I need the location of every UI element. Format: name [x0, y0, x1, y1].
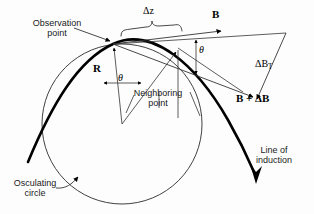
theta-center-label: θ — [118, 72, 123, 83]
observation-point-label-line2: point — [20, 28, 94, 38]
delta-z-variable: z — [149, 5, 153, 16]
delta-z-label: Δz — [143, 5, 154, 16]
radius-line-observation-point — [114, 48, 122, 124]
osculating-circle-label-line1: Osculating — [4, 178, 66, 188]
osculating-circle-label-line2: circle — [4, 188, 66, 198]
observation-point-label: Observation point — [20, 18, 94, 39]
delta-b-t-label: ΔBT — [255, 58, 273, 71]
line-of-induction-arrowhead — [250, 164, 262, 184]
line-of-induction-label-line2: induction — [246, 155, 302, 165]
observation-point-label-line1: Observation — [20, 18, 94, 28]
neighboring-point-label-line1: Neighboring — [122, 88, 194, 98]
delta-b-t-subscript: T — [268, 63, 272, 71]
b-plus-delta-b-label: B + ΔB — [236, 92, 269, 104]
magnetic-field-geometry-diagram: Observation point Neighboring point Oscu… — [0, 0, 314, 214]
neighboring-tangent-vector — [178, 48, 243, 92]
delta-z-brace — [121, 21, 182, 36]
osculating-circle-label: Osculating circle — [4, 178, 66, 199]
neighboring-point-label-line2: point — [122, 98, 194, 108]
b-vector-arrow — [113, 31, 221, 44]
line-of-induction-label: Line of induction — [246, 145, 302, 166]
neighboring-point-label: Neighboring point — [122, 88, 194, 109]
b-vector-label: B — [212, 8, 219, 20]
r-vector-label: R — [93, 62, 101, 74]
line-of-induction-label-line1: Line of — [246, 145, 302, 155]
theta-vectors-label: θ — [199, 44, 204, 55]
